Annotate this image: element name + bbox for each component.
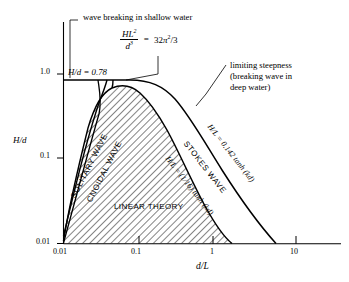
annotation-limiting-steepness-line1: limiting steepness [230, 61, 292, 70]
ursell-equals: = [141, 35, 152, 44]
ursell-num-sup: 2 [134, 28, 137, 34]
leader-limiting-steepness [196, 65, 226, 106]
leader-ursell-formula [126, 56, 158, 80]
x-tick-label-001: 0.01 [53, 248, 67, 256]
annotation-ursell-formula: HL2 d3 = 32π2/3 [120, 28, 177, 52]
annotation-limiting-steepness-line3: deep water) [230, 83, 270, 92]
x-tick-label-01: 0.1 [131, 248, 141, 256]
y-tick-label-1: 1.0 [40, 68, 50, 76]
ursell-num-text: HL [122, 29, 134, 39]
ursell-rhs-pre: 32 [154, 35, 163, 45]
ursell-fraction: HL2 d3 [120, 28, 138, 52]
x-axis-label: d/L [196, 262, 209, 272]
wave-theory-chart: 1.0 0.1 0.01 0.01 0.1 1 10 H/d d/L wave … [0, 0, 349, 282]
y-axis-label: H/d [13, 136, 27, 145]
curve-ursell-upper [112, 80, 113, 88]
ursell-numerator: HL2 [120, 28, 138, 40]
ursell-den-sup: 3 [130, 40, 133, 46]
annotation-hd-078: H/d = 0.78 [68, 68, 107, 77]
x-tick-label-10: 10 [290, 248, 298, 256]
annotation-limiting-steepness-line2: (breaking wave in [230, 72, 292, 81]
region-label-linear-theory: LINEAR THEORY [114, 203, 183, 211]
y-tick-label-001: 0.01 [36, 238, 50, 246]
annotation-shallow-breaking: wave breaking in shallow water [83, 13, 192, 22]
x-tick-label-1: 1 [210, 248, 214, 256]
y-tick-label-01: 0.1 [40, 152, 50, 160]
ursell-rhs: 32π2/3 [154, 34, 177, 45]
ursell-rhs-post: /3 [170, 35, 177, 45]
ursell-denominator: d3 [120, 40, 138, 51]
